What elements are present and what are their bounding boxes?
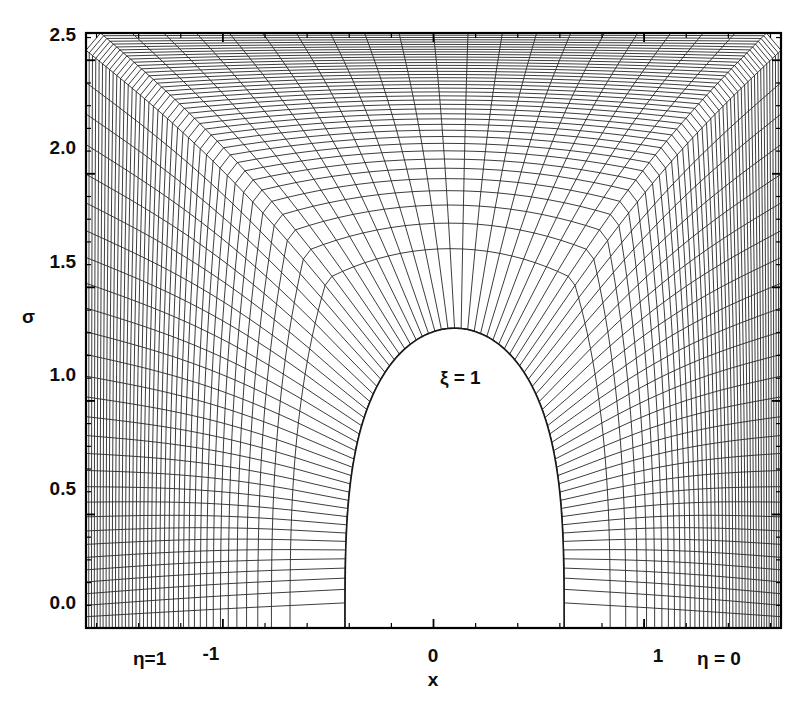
grid-line-eta xyxy=(564,559,781,570)
grid-line-eta xyxy=(86,515,347,525)
y-tick-label-0.0: 0.0 xyxy=(18,592,76,614)
grid-line-eta xyxy=(86,589,345,605)
grid-figure: 2.5 2.0 1.5 1.0 0.5 0.0 σ -1 0 1 x η=1 η… xyxy=(0,0,808,725)
grid-line-eta xyxy=(86,502,347,517)
y-tick-label-2.0: 2.0 xyxy=(18,137,76,159)
y-axis-label: σ xyxy=(22,306,35,328)
xi-equals-one-label: ξ = 1 xyxy=(440,367,481,389)
grid-line-eta xyxy=(86,487,348,509)
x-axis-label: x xyxy=(418,669,448,691)
computational-grid-canvas xyxy=(0,0,808,725)
grid-line-eta xyxy=(86,528,346,533)
grid-line-eta xyxy=(86,603,345,617)
grid-line-eta xyxy=(563,539,781,544)
eta-equals-zero-label: η = 0 xyxy=(697,648,741,670)
x-tick-label-0: 0 xyxy=(418,645,448,667)
grid-line-eta xyxy=(86,550,346,558)
grid-line-eta xyxy=(563,528,781,533)
y-tick-label-1.5: 1.5 xyxy=(18,251,76,273)
grid-line-eta xyxy=(461,33,468,329)
y-tick-label-1.0: 1.0 xyxy=(18,364,76,386)
grid-line-eta xyxy=(562,515,781,525)
grid-line-eta xyxy=(493,33,638,340)
grid-line-eta xyxy=(86,114,381,379)
grid-line-eta xyxy=(564,589,781,605)
grid-line-eta xyxy=(563,550,781,558)
grid-line-eta xyxy=(86,203,370,402)
x-tick-label-1: 1 xyxy=(643,645,673,667)
grid-line-eta xyxy=(515,33,767,360)
grid-line-eta xyxy=(86,559,346,570)
eta-equals-one-label: η=1 xyxy=(133,648,166,670)
grid-line-eta xyxy=(564,603,781,617)
y-tick-label-2.5: 2.5 xyxy=(18,24,76,46)
grid-line-eta xyxy=(86,539,346,544)
x-tick-label--1: -1 xyxy=(196,643,226,665)
grid-line-eta xyxy=(86,145,377,387)
y-tick-label-0.5: 0.5 xyxy=(18,478,76,500)
